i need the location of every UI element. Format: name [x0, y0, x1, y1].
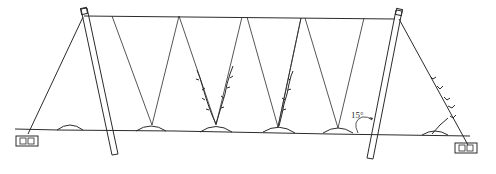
right-guy-wire — [399, 19, 468, 145]
right-post — [367, 8, 403, 159]
trellis-drawing: 15° — [0, 0, 496, 174]
top-wire — [84, 16, 395, 19]
trellis-diagram: 15° — [0, 0, 496, 174]
right-anchor-block — [455, 143, 477, 153]
angle-label: 15° — [351, 110, 364, 120]
ground-line — [15, 129, 470, 136]
left-guy-wire — [28, 17, 83, 134]
angle-annotation: 15° — [351, 110, 373, 133]
left-anchor-block — [16, 136, 38, 146]
v-strings — [112, 16, 364, 128]
vines — [196, 66, 456, 134]
left-post — [80, 7, 118, 155]
